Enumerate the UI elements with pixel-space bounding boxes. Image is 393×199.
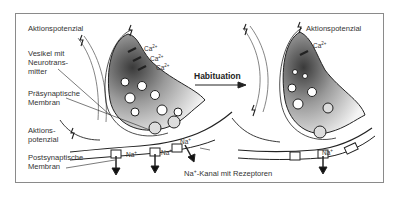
right-synapse bbox=[232, 22, 375, 174]
label-postsynaptisch-line-2: Membran bbox=[28, 162, 83, 171]
label-praesynaptisch-line-1: Präsynaptische bbox=[28, 89, 80, 98]
label-aktions-line-2: potenzial bbox=[28, 135, 58, 144]
ion-na-2: Na+ bbox=[161, 148, 172, 156]
label-vesikel-line-3: mitter bbox=[28, 67, 68, 76]
label-postsynaptisch-line-1: Postsynaptische bbox=[28, 153, 83, 162]
ion-na-right: Na+ bbox=[322, 148, 333, 156]
label-praesynaptisch-line-2: Membran bbox=[28, 98, 80, 107]
ion-na-3: Na+ bbox=[180, 137, 191, 145]
label-aktionspotenzial-top: Aktionspotenzial bbox=[28, 24, 83, 33]
label-aktionspotenzial-mid: Aktions- potenzial bbox=[28, 126, 58, 144]
kanal-na: Na bbox=[184, 169, 194, 178]
label-habituation: Habituation bbox=[194, 72, 241, 81]
ion-ca-1: Ca2+ bbox=[144, 44, 157, 52]
ion-ca-3: Ca2+ bbox=[156, 63, 169, 71]
ion-ca-right: Ca2+ bbox=[313, 41, 326, 49]
ion-ca-2: Ca2+ bbox=[150, 54, 163, 62]
label-vesikel-line-2: Neurotrans- bbox=[28, 58, 68, 67]
label-aktionspotenzial-right: Aktionspotenzial bbox=[306, 24, 361, 33]
ion-na-1: Na+ bbox=[126, 150, 137, 158]
label-na-kanal: Na+-Kanal mit Rezeptoren bbox=[184, 167, 272, 178]
label-postsynaptische-membran: Postsynaptische Membran bbox=[28, 153, 83, 171]
habituation-arrow bbox=[195, 82, 246, 88]
label-vesikel-line-1: Vesikel mit bbox=[28, 49, 68, 58]
label-aktions-line-1: Aktions- bbox=[28, 126, 58, 135]
kanal-text: -Kanal mit Rezeptoren bbox=[197, 169, 273, 178]
label-vesikel: Vesikel mit Neurotrans- mitter bbox=[28, 49, 68, 76]
label-praesynaptische-membran: Präsynaptische Membran bbox=[28, 89, 80, 107]
